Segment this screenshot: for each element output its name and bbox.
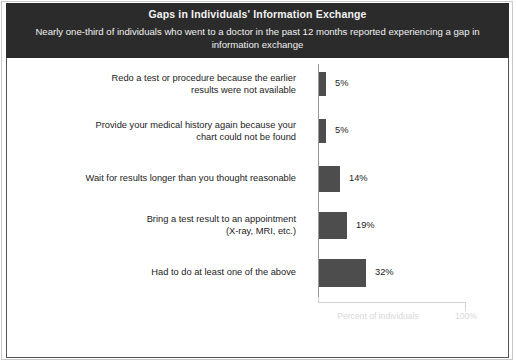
bar-row-label-line2: results were not available <box>46 85 296 97</box>
bar-row: Redo a test or procedure because the ear… <box>7 64 508 110</box>
bar <box>319 212 347 239</box>
bar-row-label-line1: Wait for results longer than you thought… <box>46 173 296 185</box>
chart-plot-panel: Percent of individuals 100% Redo a test … <box>6 58 509 358</box>
bar-row-label: Had to do at least one of the above <box>46 267 296 279</box>
bar <box>319 72 326 96</box>
bar-row: Provide your medical history again becau… <box>7 111 508 157</box>
value-axis-line <box>318 302 466 303</box>
bar-row-label-line2: chart could not be found <box>46 132 296 144</box>
bar-value-label: 14% <box>349 173 368 183</box>
bar <box>319 259 366 287</box>
bar-value-label: 5% <box>335 125 348 135</box>
bar-row-label-line2: (X-ray, MRI, etc.) <box>46 226 296 238</box>
axis-tick-max <box>465 302 466 311</box>
bar-row: Bring a test result to an appointment (X… <box>7 205 508 251</box>
bar-value-label: 32% <box>375 267 394 277</box>
bar-row-label-line1: Redo a test or procedure because the ear… <box>46 73 296 85</box>
bar-row-label: Bring a test result to an appointment (X… <box>46 214 296 237</box>
chart-title: Gaps in Individuals' Information Exchang… <box>6 3 509 20</box>
bar <box>319 119 326 143</box>
x-axis-max-tick-label: 100% <box>451 311 481 321</box>
x-axis-label: Percent of individuals <box>318 311 438 321</box>
bar-row-label-line1: Had to do at least one of the above <box>46 267 296 279</box>
bar-value-label: 5% <box>335 78 348 88</box>
bar-value-label: 19% <box>356 220 375 230</box>
plot-area: Percent of individuals 100% Redo a test … <box>7 58 508 357</box>
bar-row: Wait for results longer than you thought… <box>7 158 508 204</box>
chart-header-band: Gaps in Individuals' Information Exchang… <box>6 3 509 58</box>
chart-subtitle: Nearly one-third of individuals who went… <box>6 20 509 51</box>
bar-row-label: Provide your medical history again becau… <box>46 120 296 143</box>
bar <box>319 166 340 192</box>
bar-row-label: Wait for results longer than you thought… <box>46 173 296 185</box>
bar-row-label-line1: Bring a test result to an appointment <box>46 214 296 226</box>
bar-row-label-line1: Provide your medical history again becau… <box>46 120 296 132</box>
bar-row-label: Redo a test or procedure because the ear… <box>46 73 296 96</box>
bar-row: Had to do at least one of the above 32% <box>7 252 508 298</box>
chart-figure: Gaps in Individuals' Information Exchang… <box>0 0 516 363</box>
